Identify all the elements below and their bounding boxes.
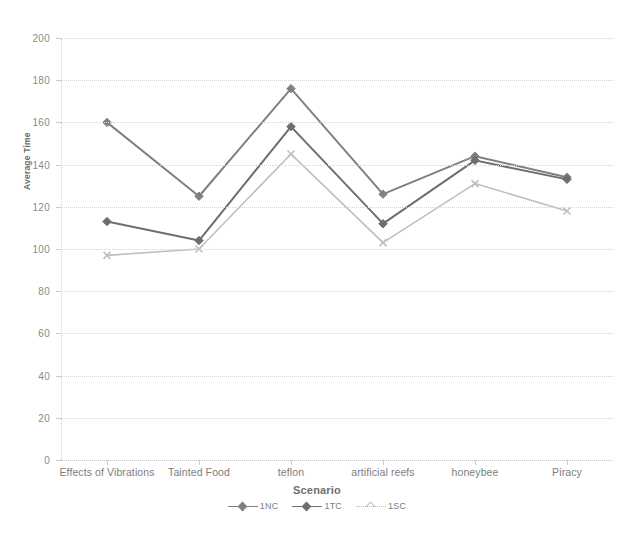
legend-item-1TC[interactable]: 1TC bbox=[292, 501, 342, 511]
x-tick-mark bbox=[475, 460, 476, 465]
legend-label: 1NC bbox=[260, 501, 279, 511]
grid-line bbox=[61, 80, 613, 81]
grid-line bbox=[61, 460, 613, 461]
series-line bbox=[107, 89, 567, 197]
y-tick-label: 160 bbox=[0, 117, 50, 128]
grid-line bbox=[61, 165, 613, 166]
legend-swatch-icon bbox=[292, 501, 322, 511]
grid-line bbox=[61, 333, 613, 334]
grid-line bbox=[61, 122, 613, 123]
y-tick-label: 40 bbox=[0, 370, 50, 381]
x-tick-mark bbox=[291, 460, 292, 465]
line-chart: Average Time 020406080100120140160180200… bbox=[0, 0, 634, 536]
y-tick-label: 180 bbox=[0, 75, 50, 86]
grid-line bbox=[61, 418, 613, 419]
grid-line bbox=[61, 291, 613, 292]
y-tick-label: 100 bbox=[0, 244, 50, 255]
x-axis-title: Scenario bbox=[0, 484, 634, 496]
y-tick-label: 0 bbox=[0, 455, 50, 466]
x-tick-label: Tainted Food bbox=[168, 466, 230, 478]
legend-swatch-icon bbox=[356, 501, 386, 511]
x-tick-label: honeybee bbox=[452, 466, 499, 478]
grid-line bbox=[61, 249, 613, 250]
y-tick-label: 80 bbox=[0, 286, 50, 297]
x-tick-mark bbox=[567, 460, 568, 465]
x-tick-label: Piracy bbox=[552, 466, 582, 478]
y-tick-label: 120 bbox=[0, 201, 50, 212]
y-tick-label: 60 bbox=[0, 328, 50, 339]
x-tick-label: Effects of Vibrations bbox=[59, 466, 154, 478]
legend-swatch-icon bbox=[228, 501, 258, 511]
data-point-marker bbox=[103, 217, 111, 225]
x-tick-mark bbox=[107, 460, 108, 465]
grid-line bbox=[61, 376, 613, 377]
y-tick-label: 200 bbox=[0, 33, 50, 44]
y-tick-label: 140 bbox=[0, 159, 50, 170]
legend-item-1NC[interactable]: 1NC bbox=[228, 501, 279, 511]
legend-label: 1TC bbox=[324, 501, 342, 511]
x-tick-mark bbox=[199, 460, 200, 465]
x-tick-label: teflon bbox=[278, 466, 304, 478]
chart-legend: 1NC1TC1SC bbox=[0, 501, 634, 511]
x-tick-label: artificial reefs bbox=[351, 466, 414, 478]
grid-line bbox=[61, 38, 613, 39]
grid-line bbox=[61, 207, 613, 208]
plot-area bbox=[61, 38, 613, 460]
y-tick-label: 20 bbox=[0, 412, 50, 423]
series-1NC bbox=[103, 84, 571, 200]
series-line bbox=[107, 154, 567, 255]
legend-item-1SC[interactable]: 1SC bbox=[356, 501, 406, 511]
series-line bbox=[107, 127, 567, 241]
data-point-marker bbox=[288, 151, 295, 158]
series-1SC bbox=[104, 151, 571, 259]
legend-label: 1SC bbox=[388, 501, 406, 511]
data-point-marker bbox=[380, 239, 387, 246]
x-tick-mark bbox=[383, 460, 384, 465]
